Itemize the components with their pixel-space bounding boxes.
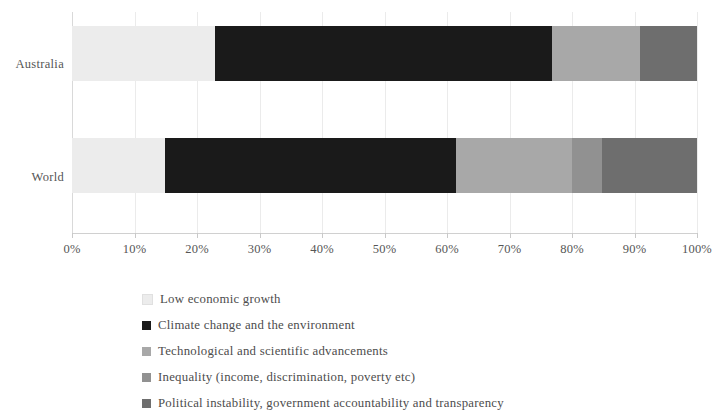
bar-segment[interactable] <box>602 138 697 193</box>
legend-item-inequality[interactable]: Inequality (income, discrimination, pove… <box>142 364 702 390</box>
legend-item-technological-advancements[interactable]: Technological and scientific advancement… <box>142 338 702 364</box>
legend: Low economic growth Climate change and t… <box>142 286 702 412</box>
x-tick-label-70: 70% <box>480 242 540 257</box>
x-tick-mark-70 <box>510 233 511 238</box>
x-tick-mark-50 <box>385 233 386 238</box>
legend-label-3: Inequality (income, discrimination, pove… <box>158 370 415 385</box>
x-tick-mark-80 <box>572 233 573 238</box>
category-label-world: World <box>0 170 64 185</box>
bar-segment[interactable] <box>640 26 697 81</box>
x-tick-mark-30 <box>260 233 261 238</box>
legend-swatch-icon-1 <box>142 321 151 330</box>
legend-swatch-icon-3 <box>142 373 151 382</box>
bar-segment[interactable] <box>165 138 456 193</box>
x-tick-mark-90 <box>635 233 636 238</box>
x-tick-mark-10 <box>135 233 136 238</box>
legend-swatch-icon-4 <box>142 399 151 408</box>
x-tick-mark-60 <box>447 233 448 238</box>
category-label-australia: Australia <box>0 57 64 72</box>
x-tick-label-20: 20% <box>167 242 227 257</box>
legend-item-political-instability[interactable]: Political instability, government accoun… <box>142 390 702 412</box>
bar-row-australia <box>0 26 715 81</box>
legend-item-low-economic-growth[interactable]: Low economic growth <box>142 286 702 312</box>
legend-label-0: Low economic growth <box>160 292 281 307</box>
legend-swatch-icon-2 <box>142 347 151 356</box>
legend-label-4: Political instability, government accoun… <box>158 396 504 411</box>
x-tick-mark-0 <box>72 233 73 238</box>
legend-swatch-icon-0 <box>142 294 153 305</box>
bar-segment[interactable] <box>456 138 572 193</box>
legend-label-2: Technological and scientific advancement… <box>158 344 388 359</box>
x-tick-label-60: 60% <box>417 242 477 257</box>
x-tick-label-10: 10% <box>105 242 165 257</box>
x-tick-label-90: 90% <box>605 242 665 257</box>
x-tick-label-0: 0% <box>42 242 102 257</box>
bar-segment[interactable] <box>552 26 640 81</box>
x-tick-label-80: 80% <box>542 242 602 257</box>
bar-segment[interactable] <box>215 26 552 81</box>
bar-segment[interactable] <box>72 138 165 193</box>
x-tick-label-100: 100% <box>667 242 715 257</box>
x-tick-label-30: 30% <box>230 242 290 257</box>
legend-label-1: Climate change and the environment <box>158 318 355 333</box>
bar-segment[interactable] <box>572 138 602 193</box>
bar-row-world <box>0 138 715 193</box>
stacked-bar-chart: Australia World 0%10%20%30%40%50%60%70%8… <box>0 0 715 412</box>
x-tick-mark-20 <box>197 233 198 238</box>
x-tick-label-40: 40% <box>292 242 352 257</box>
x-tick-label-50: 50% <box>355 242 415 257</box>
legend-item-climate-change[interactable]: Climate change and the environment <box>142 312 702 338</box>
x-tick-mark-100 <box>697 233 698 238</box>
bar-segment[interactable] <box>72 26 215 81</box>
x-tick-mark-40 <box>322 233 323 238</box>
